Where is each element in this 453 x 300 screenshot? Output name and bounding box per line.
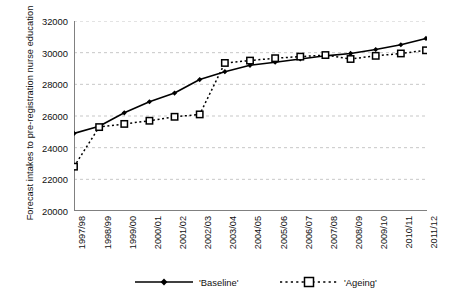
y-tick-label: 28000	[26, 79, 68, 90]
chart-legend: 'Baseline' 'Ageing'	[0, 274, 453, 294]
x-tick-label: 1999/00	[128, 216, 138, 249]
data-point	[74, 131, 77, 136]
legend-swatch-ageing-icon	[278, 276, 340, 288]
data-point	[197, 111, 203, 117]
x-tick-label: 2003/04	[228, 216, 238, 249]
x-tick-label: 2011/12	[429, 216, 439, 249]
data-point	[247, 57, 253, 63]
x-tick-label: 1998/99	[103, 216, 113, 249]
y-tick-label: 22000	[26, 174, 68, 185]
data-point	[398, 42, 403, 47]
data-point	[297, 53, 303, 59]
data-point	[222, 69, 227, 74]
x-tick-label: 2010/11	[404, 216, 414, 249]
y-tick-label: 32000	[26, 16, 68, 27]
plot-canvas	[74, 21, 427, 211]
data-point	[222, 60, 228, 66]
y-tick-label: 24000	[26, 142, 68, 153]
x-tick-label: 2001/02	[178, 216, 188, 249]
x-tick-label: 2004/05	[253, 216, 263, 249]
data-point	[322, 52, 328, 58]
x-tick-label: 2005/06	[279, 216, 289, 249]
x-tick-label: 2007/08	[329, 216, 339, 249]
chart-figure: Forecast intakes to pre-registration nur…	[0, 0, 453, 300]
data-point	[373, 47, 378, 52]
legend-item-ageing[interactable]: 'Ageing'	[278, 274, 377, 290]
data-point	[96, 124, 102, 130]
data-point	[121, 121, 127, 127]
x-axis-tick-labels: 1997/981998/991999/002000/012001/022002/…	[0, 216, 453, 272]
legend-label-baseline: 'Baseline'	[199, 277, 239, 288]
x-tick-label: 2000/01	[153, 216, 163, 249]
data-point	[272, 55, 278, 61]
data-point	[398, 50, 404, 56]
data-point	[423, 36, 427, 41]
y-axis-tick-labels: 20000220002400026000280003000032000	[24, 21, 68, 211]
data-point	[347, 56, 353, 62]
x-tick-label: 1997/98	[77, 216, 87, 249]
data-point	[423, 47, 427, 53]
data-point	[373, 53, 379, 59]
legend-item-baseline[interactable]: 'Baseline'	[133, 274, 239, 290]
legend-swatch-baseline-icon	[133, 276, 195, 288]
y-tick-label: 20000	[26, 206, 68, 217]
data-point	[171, 114, 177, 120]
x-tick-label: 2006/07	[304, 216, 314, 249]
data-point	[147, 99, 152, 104]
data-point	[146, 118, 152, 124]
legend-label-ageing: 'Ageing'	[344, 277, 377, 288]
y-tick-label: 26000	[26, 111, 68, 122]
plot-area	[74, 21, 427, 211]
x-tick-label: 2009/10	[379, 216, 389, 249]
data-point	[74, 163, 77, 169]
y-tick-label: 30000	[26, 47, 68, 58]
x-tick-label: 2002/03	[203, 216, 213, 249]
x-tick-label: 2008/09	[354, 216, 364, 249]
